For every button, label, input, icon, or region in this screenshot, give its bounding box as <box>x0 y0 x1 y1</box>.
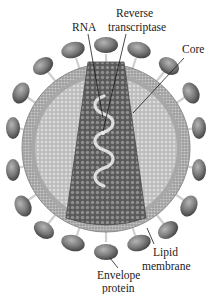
label-reverse-transcriptase-line1: Reverse <box>116 7 153 19</box>
label-reverse-transcriptase-line2: transcriptase <box>108 21 166 34</box>
label-envelope-protein-line2: protein <box>102 282 135 294</box>
label-lipid-membrane-line1: Lipid <box>153 246 178 259</box>
leader-envelope-protein <box>110 258 118 268</box>
label-core: Core <box>182 43 204 55</box>
label-envelope-protein-line1: Envelope <box>97 269 140 282</box>
label-lipid-membrane-line2: membrane <box>142 260 191 272</box>
label-rna: RNA <box>72 21 97 33</box>
hiv-virion-diagram: RNA Reverse transcriptase Core Lipid mem… <box>0 0 212 294</box>
reverse-transcriptase <box>101 131 105 135</box>
